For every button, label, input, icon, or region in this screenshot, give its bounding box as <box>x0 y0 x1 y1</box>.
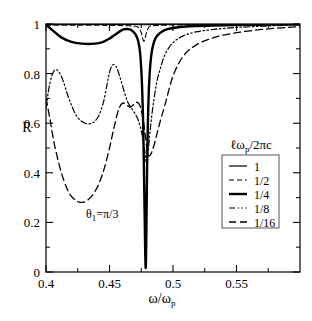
legend-label-1-2: 1/2 <box>254 174 269 188</box>
svg-text:θ1=π/3: θ1=π/3 <box>86 207 118 223</box>
legend-title-lead: ℓω <box>230 137 245 152</box>
y-tick-label: 0.8 <box>24 67 40 82</box>
legend-label-1: 1 <box>254 160 260 174</box>
x-axis-label-sub: p <box>171 298 176 308</box>
legend-title: ℓωp/2πc <box>230 137 272 154</box>
x-tick-label: 0.45 <box>98 276 121 291</box>
legend-label-1-16: 1/16 <box>254 216 275 230</box>
x-tick-label: 0.5 <box>165 276 181 291</box>
svg-text:ℓωp/2πc: ℓωp/2πc <box>230 137 272 154</box>
y-tick-label: 1 <box>34 17 41 32</box>
theta-equation: =π/3 <box>96 207 118 221</box>
figure-container: 0.40.450.50.55 00.20.40.60.81 R ω/ωp θ1=… <box>0 0 312 321</box>
y-tick-label: 0.4 <box>24 166 41 181</box>
x-tick-label: 0.55 <box>225 276 248 291</box>
y-axis-label: R <box>22 120 32 135</box>
x-tick-label: 0.4 <box>38 276 55 291</box>
reflectance-chart: 0.40.450.50.55 00.20.40.60.81 R ω/ωp θ1=… <box>0 0 312 321</box>
y-tick-label: 0.2 <box>24 215 40 230</box>
legend-label-1-8: 1/8 <box>254 202 269 216</box>
theta-annotation: θ1=π/3 <box>86 207 118 223</box>
x-axis-label-main: ω/ω <box>149 291 171 306</box>
legend-title-tail: /2πc <box>249 137 272 152</box>
y-tick-label: 0 <box>34 265 41 280</box>
legend-label-1-4: 1/4 <box>254 188 269 202</box>
